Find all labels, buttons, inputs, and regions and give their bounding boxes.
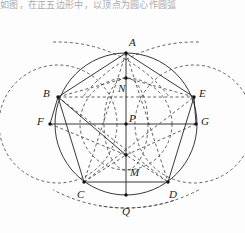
- seg-CM: [84, 155, 126, 182]
- side-EA: [126, 53, 194, 97]
- vertex-dot-G: [194, 122, 197, 125]
- point-label-Q: Q: [122, 206, 130, 217]
- seg-GM: [126, 124, 196, 155]
- vertex-dot-F: [48, 122, 51, 125]
- point-label-N: N: [118, 83, 125, 94]
- point-label-F: F: [37, 116, 44, 127]
- vertex-dot-B: [56, 95, 59, 98]
- seg-NB: [58, 78, 126, 97]
- vertex-dot-Q: [124, 193, 127, 196]
- vertex-dot-A: [124, 51, 127, 54]
- vertex-dot-D: [166, 180, 169, 183]
- side-AB: [58, 53, 126, 97]
- vertex-dot-C: [82, 180, 85, 183]
- vertex-dot-P: [124, 122, 127, 125]
- point-label-P: P: [129, 113, 136, 124]
- vertex-dot-N: [124, 76, 127, 79]
- arc-low-right: [99, 190, 199, 208]
- seg-FM: [50, 124, 126, 155]
- vertex-dot-M: [124, 153, 127, 156]
- point-label-C: C: [77, 189, 84, 200]
- vertex-dot-E: [192, 95, 195, 98]
- seg-BM: [58, 97, 126, 155]
- segments-group: [50, 53, 196, 195]
- seg-NE: [126, 78, 194, 97]
- point-label-E: E: [199, 88, 206, 99]
- seg-BF: [50, 97, 58, 124]
- point-label-M: M: [130, 167, 139, 178]
- diag-AC: [84, 53, 126, 182]
- point-label-A: A: [129, 37, 136, 48]
- figure-page: 如图，在正五边形中，以顶点为圆心作圆弧 ABCDEFGNPMQ: [0, 0, 245, 233]
- point-label-B: B: [43, 88, 50, 99]
- point-label-D: D: [169, 189, 177, 200]
- diag-BD: [58, 97, 168, 182]
- point-label-G: G: [201, 116, 209, 127]
